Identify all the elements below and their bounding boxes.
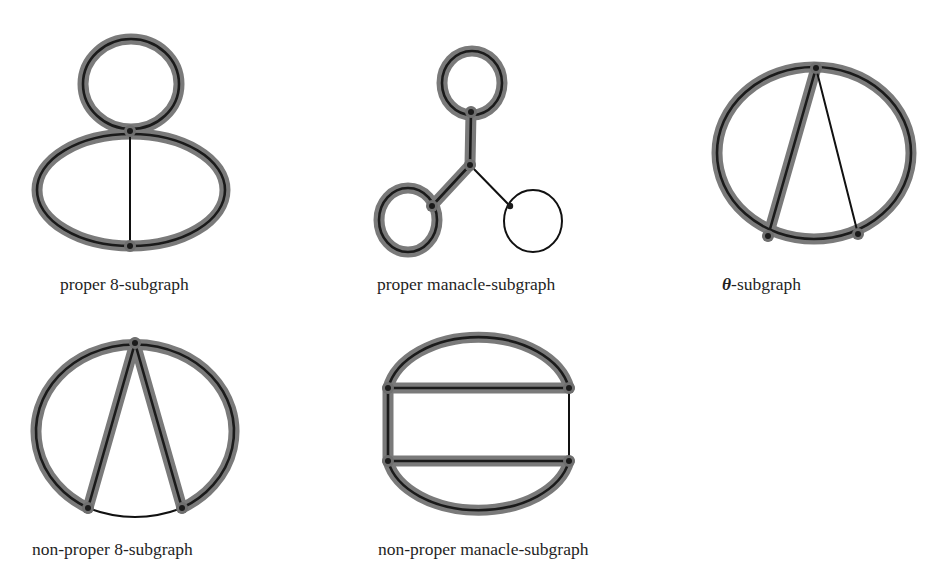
left-loop-edge — [379, 188, 437, 252]
caption-theta-rest: -subgraph — [731, 274, 801, 294]
top-arc-edge — [388, 337, 569, 388]
caption-non-proper-manacle-subgraph: non-proper manacle-subgraph — [378, 541, 588, 559]
vertex — [566, 458, 572, 464]
vertex — [132, 340, 138, 346]
non-proper-manacle-subgraph-diagram — [382, 337, 575, 510]
vertex — [468, 109, 474, 115]
right-arm-edge — [470, 165, 510, 206]
vertex — [765, 233, 771, 239]
vertex — [85, 505, 91, 511]
caption-proper-manacle-subgraph: proper manacle-subgraph — [377, 276, 555, 294]
vertex — [467, 162, 473, 168]
left-chord-edge — [88, 343, 135, 508]
theta-subgraph-diagram — [717, 62, 911, 242]
top-loop-edge — [83, 39, 179, 129]
proper-8-subgraph-diagram — [37, 39, 225, 252]
vertex — [127, 243, 133, 249]
caption-theta-subgraph: θ-subgraph — [722, 276, 801, 294]
vertex — [855, 231, 861, 237]
right-chord-edge — [816, 68, 858, 234]
left-chord-edge — [768, 68, 816, 236]
vertex — [385, 458, 391, 464]
right-chord-edge — [135, 343, 182, 508]
right-loop-edge — [504, 190, 562, 252]
bottom-arc-edge — [88, 508, 182, 517]
theta-symbol: θ — [722, 274, 731, 294]
vertex — [507, 203, 513, 209]
proper-manacle-subgraph-diagram — [379, 51, 562, 252]
vertex — [127, 128, 133, 134]
vertex — [429, 203, 435, 209]
bottom-arc-highlight — [388, 461, 569, 510]
top-arc-highlight — [388, 337, 569, 388]
top-stem-edge — [470, 112, 471, 165]
left-arm-edge — [432, 165, 470, 206]
vertex — [813, 65, 819, 71]
vertex — [566, 385, 572, 391]
vertex — [179, 505, 185, 511]
outer-arc-edge — [36, 344, 234, 508]
bottom-arc-edge — [388, 461, 569, 510]
non-proper-8-subgraph-diagram — [36, 337, 234, 517]
top-loop-edge — [442, 51, 502, 115]
caption-proper-8-subgraph: proper 8-subgraph — [60, 276, 189, 294]
caption-non-proper-8-subgraph: non-proper 8-subgraph — [32, 541, 193, 559]
vertex — [385, 385, 391, 391]
